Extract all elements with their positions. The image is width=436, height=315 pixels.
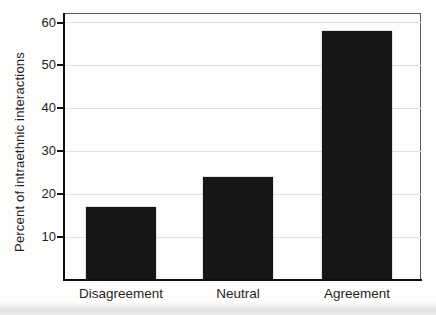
y-axis-line bbox=[63, 13, 65, 280]
y-tick-mark-30 bbox=[57, 150, 64, 152]
y-tick-label-20: 20 bbox=[0, 186, 56, 202]
y-tick-mark-50 bbox=[57, 64, 64, 66]
y-tick-mark-40 bbox=[57, 107, 64, 109]
x-category-label-agreement: Agreement bbox=[292, 286, 422, 301]
y-tick-mark-60 bbox=[57, 22, 64, 24]
bar-chart-figure: Percent of intraethnic interactions 1020… bbox=[0, 0, 436, 315]
bar-neutral bbox=[203, 177, 273, 280]
y-tick-mark-10 bbox=[57, 236, 64, 238]
y-tick-label-10: 10 bbox=[0, 229, 56, 245]
y-tick-label-60: 60 bbox=[0, 15, 56, 31]
bar-agreement bbox=[322, 31, 392, 280]
gridline-60 bbox=[65, 22, 421, 23]
y-tick-mark-20 bbox=[57, 193, 64, 195]
plot-area bbox=[65, 14, 421, 280]
x-category-label-disagreement: Disagreement bbox=[56, 286, 186, 301]
y-tick-label-40: 40 bbox=[0, 100, 56, 116]
x-category-label-neutral: Neutral bbox=[173, 286, 303, 301]
y-tick-label-50: 50 bbox=[0, 57, 56, 73]
x-axis-line bbox=[63, 279, 422, 281]
y-tick-label-30: 30 bbox=[0, 143, 56, 159]
bar-disagreement bbox=[86, 207, 156, 280]
scan-shadow-band bbox=[0, 302, 436, 315]
